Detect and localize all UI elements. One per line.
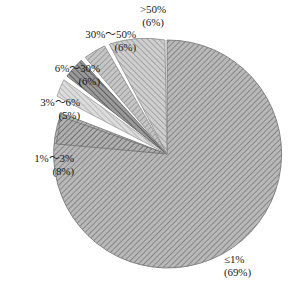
pie-chart-canvas bbox=[0, 0, 299, 295]
pie-label-gt50-value: (6%) bbox=[118, 16, 188, 29]
pie-label-30-50-value: (6%) bbox=[52, 41, 136, 54]
pie-label-30-50-category: 30%～50% bbox=[52, 28, 136, 41]
pie-label-3-6: 3%～6% (5%) bbox=[2, 96, 80, 121]
pie-label-gt50-category: >50% bbox=[118, 3, 188, 16]
pie-label-le1-value: (69%) bbox=[224, 266, 294, 279]
pie-label-le1-category: ≤1% bbox=[224, 253, 294, 266]
pie-label-3-6-value: (5%) bbox=[2, 109, 80, 122]
pie-label-1-3: 1%～3% (8%) bbox=[0, 152, 74, 177]
pie-label-6-30: 6%～30% (6%) bbox=[16, 62, 100, 87]
pie-label-6-30-category: 6%～30% bbox=[16, 62, 100, 75]
pie-label-le1: ≤1% (69%) bbox=[224, 253, 294, 278]
pie-label-1-3-value: (8%) bbox=[0, 165, 74, 178]
pie-label-gt50: >50% (6%) bbox=[118, 3, 188, 28]
pie-label-1-3-category: 1%～3% bbox=[0, 152, 74, 165]
pie-label-3-6-category: 3%～6% bbox=[2, 96, 80, 109]
pie-label-30-50: 30%～50% (6%) bbox=[52, 28, 136, 53]
pie-chart: >50% (6%) 30%～50% (6%) 6%～30% (6%) 3%～6%… bbox=[0, 0, 299, 295]
pie-label-6-30-value: (6%) bbox=[16, 75, 100, 88]
